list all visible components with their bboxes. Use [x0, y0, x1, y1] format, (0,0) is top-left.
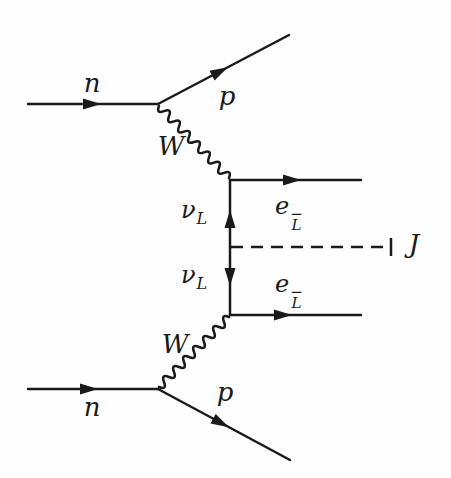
arrow-neutrino-down-icon	[225, 268, 236, 286]
electron-symbol: e	[275, 270, 289, 298]
arrow-neutrino-up-icon	[225, 210, 236, 228]
electron-symbol: e	[275, 192, 289, 220]
neutrino-subscript: L	[196, 274, 207, 293]
label-electron-bottom: e−L	[275, 272, 303, 305]
arrow-electron-top-icon	[283, 175, 301, 186]
neutrino-subscript: L	[196, 209, 207, 228]
arrow-proton-bottom-icon	[210, 414, 231, 432]
neutrino-symbol: ν	[181, 261, 196, 289]
label-neutron-bottom: n	[84, 394, 101, 420]
label-neutron-top: n	[84, 70, 101, 96]
feynman-diagram: n p W νL e−L νL e−L W n p J	[0, 0, 451, 478]
label-proton-top: p	[219, 83, 236, 109]
electron-subscript: L	[292, 298, 302, 309]
neutrino-symbol: ν	[181, 196, 196, 224]
label-w-boson-top: W	[158, 133, 185, 159]
label-proton-bottom: p	[217, 379, 234, 405]
label-majoron: J	[409, 231, 419, 257]
electron-subscript: L	[292, 220, 302, 231]
arrow-electron-bottom-icon	[274, 310, 292, 321]
label-neutrino-top: νL	[181, 198, 207, 227]
arrow-proton-top-icon	[209, 62, 230, 80]
label-neutrino-bottom: νL	[181, 263, 207, 292]
label-w-boson-bottom: W	[162, 331, 189, 357]
label-electron-top: e−L	[275, 194, 303, 227]
arrow-neutron-top-icon	[83, 99, 101, 110]
